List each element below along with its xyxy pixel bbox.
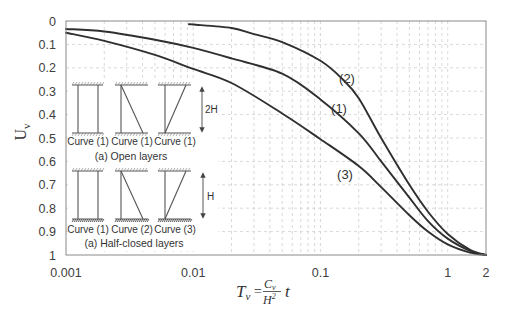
svg-text:=: = <box>253 284 262 299</box>
curve-label: (1) <box>331 101 347 116</box>
y-tick-label: 0.6 <box>39 155 56 169</box>
layer-schematic-inset: 2H Curve (1) Curve (1) Curve (1) (a) Ope… <box>67 81 218 251</box>
x-tick-label: 0.01 <box>181 266 205 280</box>
open-label-1: Curve (1) <box>67 136 109 147</box>
svg-text:t: t <box>285 282 291 301</box>
curve-label: (2) <box>339 71 355 86</box>
half-label-3: Curve (3) <box>154 224 196 235</box>
consolidation-chart: 00.10.20.30.40.50.60.70.80.91 0.0010.010… <box>0 0 507 320</box>
half-label-1: Curve (1) <box>67 224 109 235</box>
y-axis-ticks: 00.10.20.30.40.50.60.70.80.91 <box>39 15 56 263</box>
half-caption: (a) Half-closed layers <box>84 237 183 249</box>
open-label-2: Curve (1) <box>111 136 153 147</box>
open-thickness-label: 2H <box>205 104 218 115</box>
half-label-2: Curve (2) <box>111 224 153 235</box>
half-thickness-label: H <box>207 191 214 202</box>
y-axis-label: Uv <box>12 123 32 141</box>
y-tick-label: 0.7 <box>39 178 56 192</box>
y-tick-label: 0.8 <box>39 202 56 216</box>
x-tick-label: 0.1 <box>312 266 329 280</box>
x-tick-label: 2 <box>483 266 490 280</box>
x-tick-label: 0.001 <box>50 266 81 280</box>
open-caption: (a) Open layers <box>95 150 167 162</box>
y-tick-label: 0.4 <box>39 108 56 122</box>
y-tick-label: 0.5 <box>39 132 56 146</box>
svg-text:Cv: Cv <box>264 277 276 292</box>
svg-text:H2: H2 <box>262 292 276 307</box>
svg-text:Tv: Tv <box>236 282 250 302</box>
y-tick-label: 1 <box>49 249 56 263</box>
open-label-3: Curve (1) <box>154 136 196 147</box>
x-axis-label: Tv = Cv H2 t <box>236 277 291 307</box>
y-tick-label: 0 <box>49 15 56 29</box>
y-tick-label: 0.2 <box>39 61 56 75</box>
y-tick-label: 0.1 <box>39 38 56 52</box>
curve-label: (3) <box>337 167 353 182</box>
y-tick-label: 0.9 <box>39 225 56 239</box>
x-tick-label: 1 <box>444 266 451 280</box>
y-tick-label: 0.3 <box>39 85 56 99</box>
